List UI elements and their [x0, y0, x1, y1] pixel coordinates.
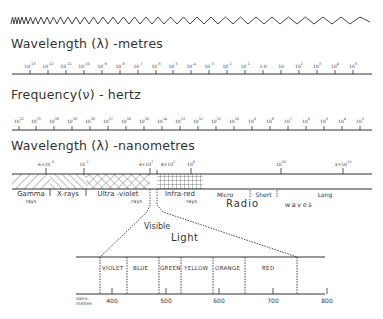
tick-label: 10-9: [97, 62, 106, 69]
tick-label: 106: [187, 160, 195, 167]
nm-tick-500: 500: [160, 297, 171, 304]
tick-label: 10-2: [222, 62, 231, 69]
tick-label: 1020: [49, 117, 59, 124]
tick-label: 10: [278, 62, 284, 69]
tick-label: 1021: [31, 117, 41, 124]
waves-label: waves: [285, 201, 313, 209]
tick-label: 10-1: [240, 62, 249, 69]
nm-tick-800: 800: [321, 297, 332, 304]
tick-label: 10-11: [60, 62, 71, 69]
tick-label: 6×10-3: [38, 160, 54, 167]
frequency-axis-title: Frequency(ν) - hertz: [11, 87, 141, 102]
nm-tick-400: 400: [106, 297, 117, 304]
wave-line: [11, 17, 370, 24]
tick-label: 107: [284, 117, 292, 124]
band-sublabel: rays: [157, 198, 203, 204]
nm-tick-700: 700: [267, 297, 278, 304]
tick-label: 1014: [157, 117, 167, 124]
band-long: Long: [300, 191, 350, 199]
tick-label: 1018: [85, 117, 95, 124]
tick-label: 10-7: [133, 62, 142, 69]
color-red: RED: [262, 265, 274, 271]
unit-line: metres: [76, 301, 92, 306]
band-label: Ultra -violet: [86, 190, 150, 198]
tick-label: 106: [302, 117, 310, 124]
tick-label: 104: [331, 62, 339, 69]
color-violet: VIOLET: [102, 265, 123, 271]
tick-label: 8×102: [161, 160, 176, 167]
band-x-rays: X-rays: [50, 190, 86, 198]
light-title: Light: [171, 232, 198, 243]
tick-label: 1011: [211, 117, 221, 124]
band-label: Long: [300, 191, 350, 199]
band-ultra-violet: Ultra -violet rays: [86, 190, 150, 204]
tick-label: 109: [248, 117, 256, 124]
tick-label: 1017: [103, 117, 113, 124]
tick-label: 1010: [229, 117, 239, 124]
tick-label: 10-5: [168, 62, 177, 69]
band-infra-red: Infra-red rays: [157, 190, 203, 204]
tick-label: 102: [295, 62, 303, 69]
band-label: Infra-red: [157, 190, 203, 198]
metres-axis-title: Wavelength (λ) -metres: [11, 36, 163, 51]
color-green: GREEN: [160, 265, 181, 271]
band-sublabel: rays: [12, 198, 50, 204]
tick-label: 10-1: [79, 160, 88, 167]
color-orange: ORANGE: [215, 265, 240, 271]
tick-label: 1013: [175, 117, 185, 124]
tick-label: 1016: [121, 117, 131, 124]
radio-label: Radio: [226, 198, 259, 209]
tick-label: 10-8: [115, 62, 124, 69]
tick-label: 108: [266, 117, 274, 124]
tick-label: 103: [313, 62, 321, 69]
tick-label: 1022: [14, 117, 24, 124]
nm-tick-600: 600: [213, 297, 224, 304]
tick-label: 1010: [276, 160, 286, 167]
nanometres-axis-title: Wavelength (λ) -nanometres: [11, 138, 195, 153]
tick-label: 10-10: [78, 62, 89, 69]
tick-label: 1·0: [259, 62, 266, 69]
tick-label: 10-4: [186, 62, 195, 69]
tick-label: 1012: [193, 117, 203, 124]
band-label: X-rays: [50, 190, 86, 198]
tick-label: 1019: [67, 117, 77, 124]
color-yellow: YELLOW: [184, 265, 208, 271]
tick-label: 103: [356, 117, 364, 124]
band-sublabel: rays: [86, 198, 150, 204]
tick-label: 10-12: [42, 62, 53, 69]
band-label: Gamma: [12, 190, 50, 198]
visible-title: Visible: [144, 222, 170, 231]
tick-label: 3×1013: [335, 160, 352, 167]
tick-label: 104: [338, 117, 346, 124]
tick-label: 1015: [139, 117, 149, 124]
color-blue: BLUE: [133, 265, 148, 271]
tick-label: 105: [349, 62, 357, 69]
tick-label: 10-13: [24, 62, 35, 69]
band-gamma: Gamma rays: [12, 190, 50, 204]
tick-label: 4×102: [139, 160, 154, 167]
tick-label: 10-3: [204, 62, 213, 69]
nanometres-unit-label: nano- metres: [76, 296, 92, 306]
tick-label: 105: [320, 117, 328, 124]
tick-label: 10-6: [151, 62, 160, 69]
